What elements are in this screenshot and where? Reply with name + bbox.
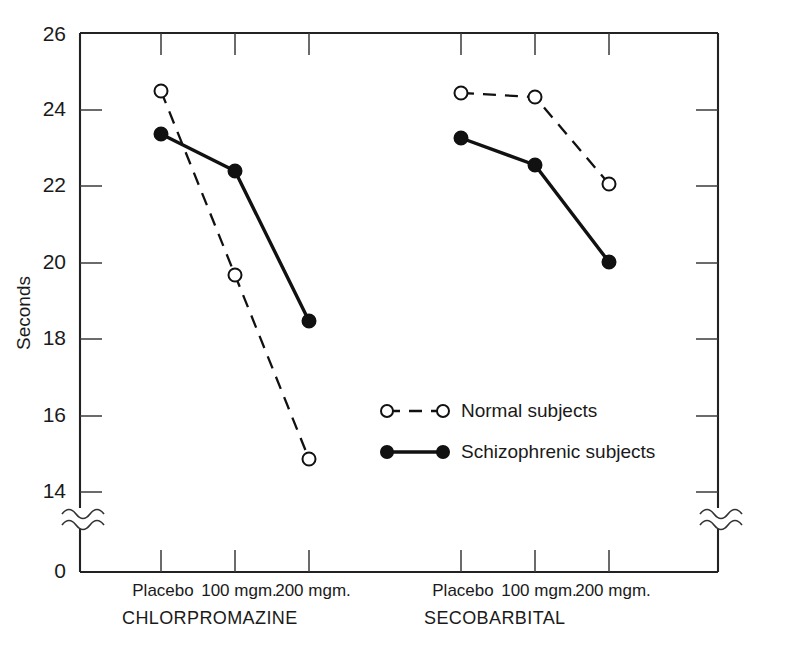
series-schizophrenic-secobarbital — [454, 131, 616, 269]
legend: Normal subjects Schizophrenic subjects — [381, 400, 656, 462]
axis-break-left-icon — [62, 510, 104, 530]
y-tick-label-20: 20 — [43, 250, 66, 273]
y-tick-label-22: 22 — [43, 173, 66, 196]
legend-filled-circle-right — [437, 446, 450, 459]
group-label-secobarbital: SECOBARBITAL — [424, 608, 566, 628]
legend-label-schizophrenic: Schizophrenic subjects — [461, 441, 655, 462]
x-tick-label-placebo-right: Placebo — [432, 581, 493, 600]
schizo-line-right — [461, 138, 609, 262]
schizo-point-placebo-right — [454, 131, 468, 145]
legend-entry-normal: Normal subjects — [381, 400, 597, 421]
x-tick-label-placebo-left: Placebo — [132, 581, 193, 600]
schizo-point-100mgm-right — [528, 158, 542, 172]
x-tick-label-100mgm-left: 100 mgm. — [201, 581, 277, 600]
normal-point-placebo-left — [155, 85, 168, 98]
x-tick-label-200mgm-left: 200 mgm. — [275, 581, 351, 600]
normal-point-200mgm-right — [603, 178, 616, 191]
y-tick-label-18: 18 — [43, 326, 66, 349]
y-tick-label-14: 14 — [43, 479, 67, 502]
series-normal-secobarbital — [455, 87, 616, 191]
legend-label-normal: Normal subjects — [461, 400, 597, 421]
y-tick-labels: 26 24 22 20 18 16 14 0 — [43, 22, 67, 582]
group-label-chlorpromazine: CHLORPROMAZINE — [122, 608, 298, 628]
y-tick-label-16: 16 — [43, 403, 66, 426]
x-tick-label-100mgm-right: 100 mgm. — [501, 581, 577, 600]
schizo-point-100mgm-left — [228, 164, 242, 178]
axis-break-right-icon — [700, 510, 742, 530]
normal-point-100mgm-right — [529, 91, 542, 104]
figure-root: 26 24 22 20 18 16 14 0 Seconds — [0, 0, 810, 652]
x-tick-label-200mgm-right: 200 mgm. — [575, 581, 651, 600]
legend-open-circle-left — [381, 405, 393, 417]
legend-open-circle-right — [437, 405, 449, 417]
plot-frame — [80, 33, 718, 572]
legend-entry-schizophrenic: Schizophrenic subjects — [381, 441, 656, 462]
schizo-line-left — [161, 134, 309, 321]
y-tick-label-26: 26 — [43, 22, 66, 45]
legend-filled-circle-left — [381, 446, 394, 459]
schizo-point-200mgm-right — [602, 255, 616, 269]
schizo-point-200mgm-left — [302, 314, 316, 328]
x-tick-marks-bottom — [161, 550, 609, 572]
normal-point-100mgm-left — [229, 269, 242, 282]
y-tick-label-24: 24 — [43, 97, 67, 120]
y-tick-marks-right — [696, 110, 718, 492]
x-tick-labels-right-group: Placebo 100 mgm. 200 mgm. — [432, 581, 651, 600]
y-tick-marks-left — [80, 110, 102, 492]
x-tick-labels-left-group: Placebo 100 mgm. 200 mgm. — [132, 581, 351, 600]
line-chart: 26 24 22 20 18 16 14 0 Seconds — [0, 0, 810, 652]
x-tick-marks-top — [161, 33, 609, 55]
y-tick-label-origin: 0 — [54, 559, 66, 582]
series-schizophrenic-chlorpromazine — [154, 127, 316, 328]
normal-point-placebo-right — [455, 87, 468, 100]
schizo-point-placebo-left — [154, 127, 168, 141]
normal-point-200mgm-left — [303, 453, 316, 466]
y-axis-title: Seconds — [13, 276, 34, 350]
